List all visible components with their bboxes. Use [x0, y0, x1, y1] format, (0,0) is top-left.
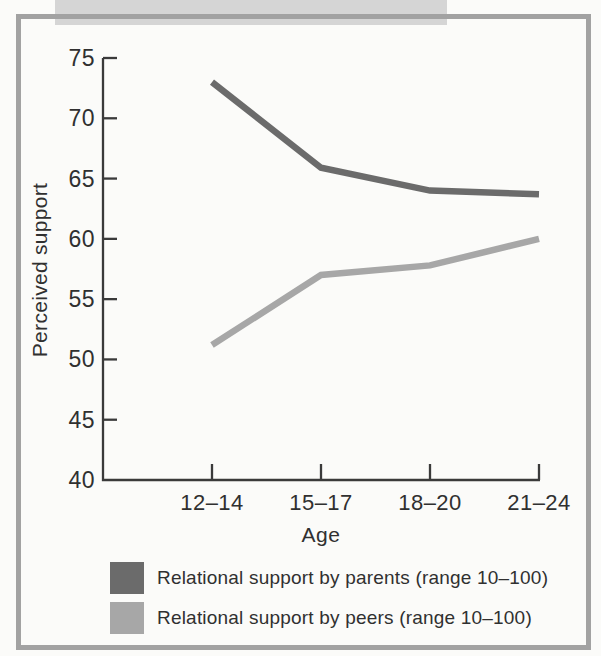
legend-label-peers: Relational support by peers (range 10–10… [157, 607, 532, 629]
x-axis-title: Age [302, 523, 341, 547]
scanned-page: 4045505560657075 12–1415–1718–2021–24 Pe… [0, 0, 601, 656]
x-tick-label: 18–20 [375, 491, 485, 515]
legend-swatch-parents [110, 562, 144, 594]
y-tick-label: 45 [45, 407, 95, 433]
y-tick-label: 60 [45, 226, 95, 252]
axis-line [103, 58, 540, 480]
x-tick-label: 15–17 [266, 491, 376, 515]
line-chart: 4045505560657075 12–1415–1718–2021–24 Pe… [0, 0, 601, 656]
y-tick-label: 55 [45, 286, 95, 312]
legend-swatch-peers [110, 602, 144, 634]
y-axis-title: Perceived support [28, 183, 52, 357]
legend-label-parents: Relational support by parents (range 10–… [157, 567, 548, 589]
y-tick-label: 50 [45, 346, 95, 372]
x-tick-label: 12–14 [157, 491, 267, 515]
plot-area [0, 0, 601, 656]
series-line-parents [212, 82, 539, 194]
y-tick-label: 75 [45, 45, 95, 71]
series-line-peers [212, 239, 539, 345]
y-tick-label: 70 [45, 105, 95, 131]
y-tick-label: 40 [45, 467, 95, 493]
legend-item-peers: Relational support by peers (range 10–10… [110, 602, 532, 634]
legend-item-parents: Relational support by parents (range 10–… [110, 562, 548, 594]
x-tick-label: 21–24 [484, 491, 594, 515]
y-tick-label: 65 [45, 166, 95, 192]
